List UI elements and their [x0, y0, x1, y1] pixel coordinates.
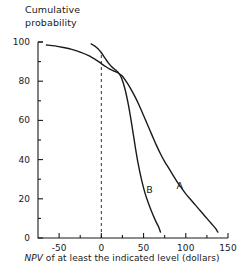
- series-curve-b: [91, 44, 160, 232]
- curve-label-a: A: [177, 180, 184, 191]
- x-tick-label: 100: [177, 243, 194, 253]
- x-axis-title-rest: of at least the indicated level (dollars…: [43, 253, 220, 263]
- series-curve-a: [46, 45, 217, 232]
- y-tick-label: 0: [6, 233, 30, 243]
- x-axis-title: NPV of at least the indicated level (dol…: [0, 253, 244, 263]
- chart-figure: Cumulative probability 020406080100-5005…: [0, 0, 244, 280]
- plot-canvas: [0, 0, 244, 280]
- axis-lines: [38, 42, 228, 238]
- y-tick-label: 40: [6, 155, 30, 165]
- y-tick-label: 80: [6, 76, 30, 86]
- x-axis-title-italic: NPV: [24, 253, 42, 263]
- x-tick-label: 150: [219, 243, 236, 253]
- curve-label-b: B: [146, 184, 153, 195]
- y-tick-label: 100: [6, 37, 30, 47]
- y-tick-label: 60: [6, 115, 30, 125]
- series-group: [46, 44, 217, 232]
- tick-marks: [38, 42, 228, 238]
- x-tick-label: 0: [98, 243, 104, 253]
- x-tick-label: -50: [52, 243, 67, 253]
- x-tick-label: 50: [138, 243, 150, 253]
- y-tick-label: 20: [6, 194, 30, 204]
